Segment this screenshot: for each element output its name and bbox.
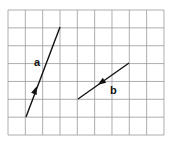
- vector-a-arrow-icon: [31, 85, 39, 95]
- vector-diagram: a b: [0, 0, 172, 142]
- grid: [8, 10, 164, 135]
- vector-b-label: b: [110, 84, 117, 96]
- vector-a-label: a: [34, 56, 41, 68]
